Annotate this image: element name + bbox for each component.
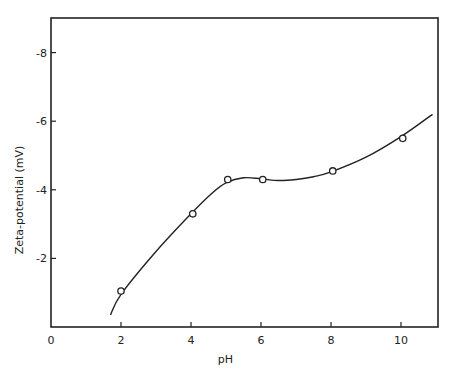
data-point-marker <box>225 176 231 182</box>
data-point-marker <box>118 288 124 294</box>
x-axis-ticks: 0246810 <box>48 322 409 347</box>
y-axis-ticks: -2-4-6-8 <box>36 47 56 266</box>
x-tick-label: 8 <box>328 334 335 347</box>
x-tick-label: 0 <box>48 334 55 347</box>
y-tick-label: -2 <box>36 252 47 265</box>
x-tick-label: 2 <box>118 334 125 347</box>
data-point-marker <box>260 176 266 182</box>
zeta-potential-chart: 0246810 -2-4-6-8 pH Zeta-potential (mV) <box>0 0 453 373</box>
x-tick-label: 6 <box>258 334 265 347</box>
data-point-marker <box>330 168 336 174</box>
fitted-curve <box>111 114 433 315</box>
y-tick-label: -6 <box>36 115 47 128</box>
x-tick-label: 10 <box>394 334 408 347</box>
y-axis-label: Zeta-potential (mV) <box>13 146 26 255</box>
x-axis-label: pH <box>218 353 233 366</box>
y-tick-label: -4 <box>36 184 47 197</box>
data-point-marker <box>400 135 406 141</box>
plot-frame <box>51 18 438 327</box>
data-point-marker <box>190 211 196 217</box>
x-tick-label: 4 <box>188 334 195 347</box>
y-tick-label: -8 <box>36 47 47 60</box>
